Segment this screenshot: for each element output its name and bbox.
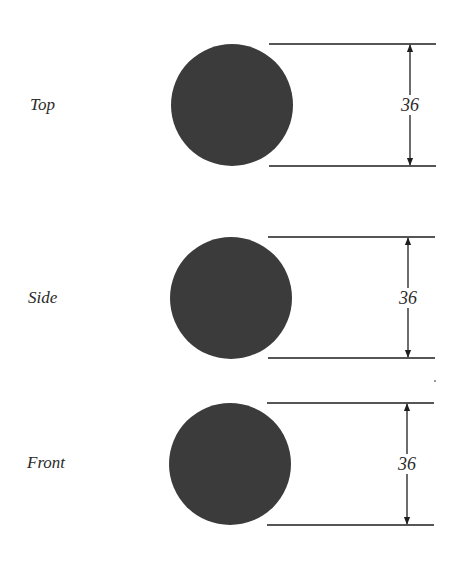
dimension-label-front: 36	[398, 454, 416, 474]
circle-side-view	[170, 237, 292, 359]
view-label-top: Top	[30, 96, 55, 113]
circle-front-view	[169, 403, 291, 525]
orthographic-views-diagram: Top Side Front 36 36 36	[0, 0, 457, 587]
diagram-canvas	[0, 0, 457, 587]
speck	[434, 380, 436, 382]
view-label-side: Side	[28, 289, 57, 306]
circle-top-view	[171, 44, 293, 166]
dimension-label-side: 36	[399, 288, 417, 308]
dimension-label-top: 36	[401, 95, 419, 115]
view-label-front: Front	[27, 454, 65, 471]
